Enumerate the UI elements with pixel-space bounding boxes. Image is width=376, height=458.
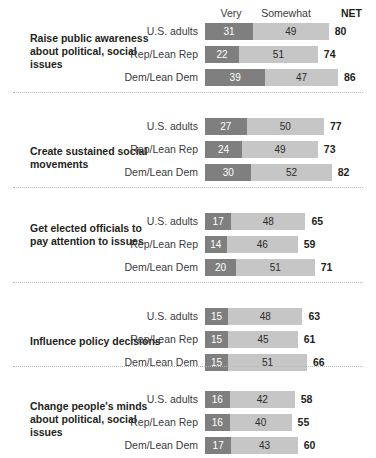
row-label: U.S. adults bbox=[90, 212, 198, 230]
bar-value-very: 15 bbox=[205, 308, 228, 325]
row-label: Dem/Lean Dem bbox=[90, 353, 198, 371]
section-divider bbox=[13, 187, 363, 189]
bar-segment-somewhat: 48 bbox=[228, 308, 302, 325]
opinion-bar-chart: Very Somewhat NET Raise public awareness… bbox=[0, 0, 376, 458]
bar-value-very: 27 bbox=[205, 118, 247, 135]
bar-segment-somewhat: 42 bbox=[230, 391, 295, 408]
bar-segment-very: 15 bbox=[205, 331, 228, 348]
bar-value-somewhat: 50 bbox=[247, 118, 324, 135]
column-header-somewhat: Somewhat bbox=[250, 7, 322, 20]
row-label: Rep/Lean Rep bbox=[90, 45, 198, 63]
bar-segment-somewhat: 43 bbox=[231, 437, 297, 454]
bar-segment-somewhat: 48 bbox=[231, 213, 305, 230]
stacked-bar: 1545 bbox=[205, 331, 298, 348]
net-value: 73 bbox=[324, 141, 336, 158]
chart-row: Dem/Lean Dem394786 bbox=[0, 68, 376, 86]
bar-segment-very: 27 bbox=[205, 118, 247, 135]
bar-value-somewhat: 51 bbox=[228, 354, 307, 371]
bar-value-very: 20 bbox=[205, 259, 236, 276]
chart-row: U.S. adults314980 bbox=[0, 22, 376, 40]
chart-row: Dem/Lean Dem205171 bbox=[0, 258, 376, 276]
net-value: 86 bbox=[344, 69, 356, 86]
chart-row: Dem/Lean Dem155166 bbox=[0, 353, 376, 371]
bar-segment-very: 15 bbox=[205, 354, 228, 371]
chart-row: Rep/Lean Rep244973 bbox=[0, 140, 376, 158]
stacked-bar: 1642 bbox=[205, 391, 295, 408]
column-header-net: NET bbox=[332, 7, 362, 20]
chart-row: Rep/Lean Rep164055 bbox=[0, 413, 376, 431]
row-label: Dem/Lean Dem bbox=[90, 163, 198, 181]
bar-value-very: 31 bbox=[205, 23, 253, 40]
chart-row: U.S. adults174865 bbox=[0, 212, 376, 230]
bar-segment-somewhat: 45 bbox=[228, 331, 298, 348]
bar-segment-very: 17 bbox=[205, 213, 231, 230]
stacked-bar: 2449 bbox=[205, 141, 318, 158]
section-divider bbox=[13, 366, 363, 368]
row-label: U.S. adults bbox=[90, 22, 198, 40]
bar-value-very: 39 bbox=[205, 69, 265, 86]
bar-segment-somewhat: 47 bbox=[265, 69, 338, 86]
stacked-bar: 1548 bbox=[205, 308, 302, 325]
bar-segment-somewhat: 51 bbox=[236, 259, 315, 276]
chart-section: Get elected officials to pay attention t… bbox=[0, 212, 376, 282]
stacked-bar: 3947 bbox=[205, 69, 338, 86]
net-value: 65 bbox=[311, 213, 323, 230]
row-label: Rep/Lean Rep bbox=[90, 235, 198, 253]
bar-value-very: 15 bbox=[205, 331, 228, 348]
bar-value-somewhat: 48 bbox=[228, 308, 302, 325]
bar-segment-somewhat: 51 bbox=[228, 354, 307, 371]
bar-value-somewhat: 47 bbox=[265, 69, 338, 86]
stacked-bar: 2750 bbox=[205, 118, 324, 135]
net-value: 66 bbox=[313, 354, 325, 371]
bar-segment-very: 20 bbox=[205, 259, 236, 276]
net-value: 60 bbox=[304, 437, 316, 454]
stacked-bar: 3149 bbox=[205, 23, 329, 40]
bar-value-very: 15 bbox=[205, 354, 228, 371]
row-label: Dem/Lean Dem bbox=[90, 68, 198, 86]
chart-section: Change people's minds about political, s… bbox=[0, 390, 376, 458]
row-label: U.S. adults bbox=[90, 117, 198, 135]
stacked-bar: 1748 bbox=[205, 213, 305, 230]
bar-segment-very: 22 bbox=[205, 46, 239, 63]
stacked-bar: 2051 bbox=[205, 259, 315, 276]
chart-row: Rep/Lean Rep154561 bbox=[0, 330, 376, 348]
chart-row: U.S. adults164258 bbox=[0, 390, 376, 408]
bar-segment-somewhat: 49 bbox=[242, 141, 318, 158]
stacked-bar: 1743 bbox=[205, 437, 298, 454]
stacked-bar: 3052 bbox=[205, 164, 332, 181]
bar-value-very: 16 bbox=[205, 414, 230, 431]
bar-segment-somewhat: 49 bbox=[253, 23, 329, 40]
bar-value-very: 17 bbox=[205, 437, 231, 454]
bar-value-somewhat: 52 bbox=[251, 164, 331, 181]
bar-value-somewhat: 43 bbox=[231, 437, 297, 454]
bar-value-very: 24 bbox=[205, 141, 242, 158]
chart-row: Dem/Lean Dem174360 bbox=[0, 436, 376, 454]
stacked-bar: 1446 bbox=[205, 236, 298, 253]
bar-segment-very: 30 bbox=[205, 164, 251, 181]
net-value: 55 bbox=[298, 414, 310, 431]
row-label: Rep/Lean Rep bbox=[90, 140, 198, 158]
bar-segment-somewhat: 40 bbox=[230, 414, 292, 431]
net-value: 63 bbox=[308, 308, 320, 325]
stacked-bar: 1551 bbox=[205, 354, 307, 371]
row-label: Dem/Lean Dem bbox=[90, 436, 198, 454]
row-label: Rep/Lean Rep bbox=[90, 330, 198, 348]
bar-value-somewhat: 42 bbox=[230, 391, 295, 408]
bar-value-somewhat: 46 bbox=[227, 236, 298, 253]
row-label: U.S. adults bbox=[90, 390, 198, 408]
bar-value-somewhat: 51 bbox=[236, 259, 315, 276]
net-value: 74 bbox=[324, 46, 336, 63]
net-value: 71 bbox=[321, 259, 333, 276]
stacked-bar: 2251 bbox=[205, 46, 318, 63]
row-label: Rep/Lean Rep bbox=[90, 413, 198, 431]
bar-value-somewhat: 48 bbox=[231, 213, 305, 230]
chart-section: Raise public awareness about political, … bbox=[0, 22, 376, 92]
bar-segment-very: 17 bbox=[205, 437, 231, 454]
column-header-row: Very Somewhat NET bbox=[0, 7, 376, 22]
bar-segment-very: 14 bbox=[205, 236, 227, 253]
net-value: 77 bbox=[330, 118, 342, 135]
bar-value-somewhat: 45 bbox=[228, 331, 298, 348]
bar-segment-somewhat: 50 bbox=[247, 118, 324, 135]
bar-segment-very: 24 bbox=[205, 141, 242, 158]
chart-row: Rep/Lean Rep225174 bbox=[0, 45, 376, 63]
